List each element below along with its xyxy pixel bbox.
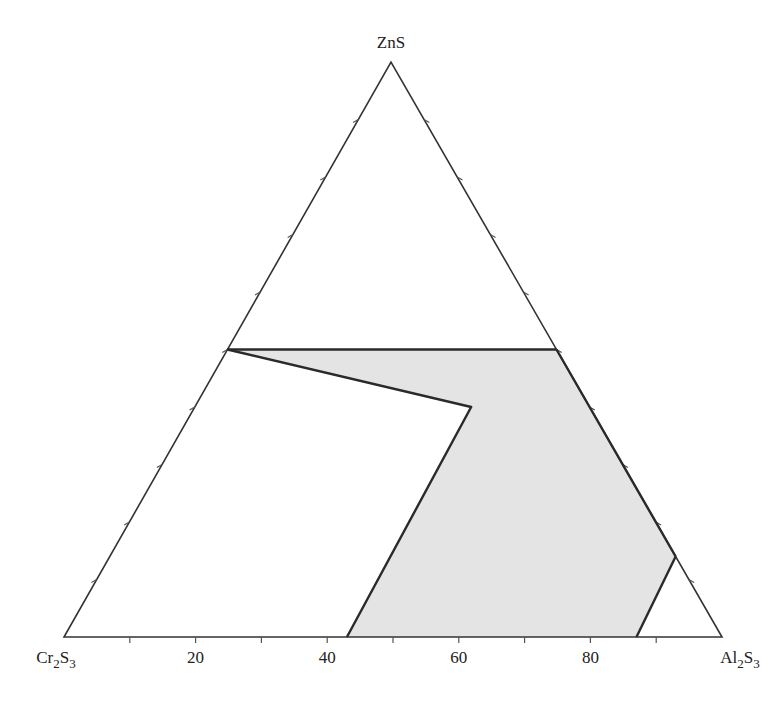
- vertex-label-cr2s3: Cr2S3: [36, 648, 75, 671]
- tick-label-40: 40: [319, 648, 336, 667]
- single-phase-solid-solution-region: [228, 350, 676, 638]
- phase-regions: [228, 350, 676, 638]
- base-axis-tick-labels: 20406080: [187, 648, 599, 667]
- tick-label-60: 60: [450, 648, 467, 667]
- vertex-label-zns: ZnS: [377, 33, 405, 52]
- ternary-phase-diagram: 20406080 ZnS Cr2S3 Al2S3: [0, 0, 784, 705]
- tick-label-80: 80: [582, 648, 599, 667]
- vertex-label-al2s3: Al2S3: [720, 648, 759, 671]
- tick-label-20: 20: [187, 648, 204, 667]
